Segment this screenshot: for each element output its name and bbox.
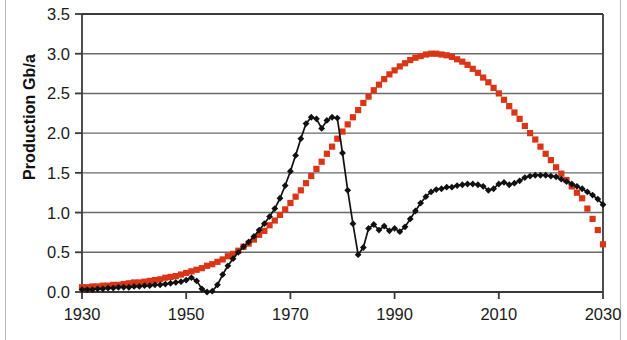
series-model-curve [79,51,606,291]
x-tick-label: 2030 [585,305,622,323]
x-tick-label: 1970 [272,305,309,323]
x-tick-label: 1930 [64,305,101,323]
data-point [167,280,174,287]
data-point [532,136,538,142]
data-point [449,184,456,191]
data-point [292,152,299,159]
data-point [261,228,267,234]
data-point [579,195,585,201]
y-tick-label: 2.0 [47,124,70,142]
data-point [589,216,595,222]
data-point [485,79,491,85]
data-point [297,135,304,142]
data-point [371,87,377,93]
data-point [319,159,325,165]
data-point [178,278,185,285]
series-line [82,117,603,292]
data-point [339,150,346,157]
data-point [345,121,351,127]
data-point [517,116,523,122]
data-point [595,227,601,233]
data-point [172,279,179,286]
data-point [454,182,461,189]
y-tick-labels: 0.00.51.01.52.02.53.03.5 [47,5,70,301]
y-tick-label: 1.5 [47,164,70,182]
data-point [313,115,320,122]
data-point [329,144,335,150]
data-point [355,107,361,113]
data-point [277,212,283,218]
data-point [350,220,357,227]
data-point [272,217,278,223]
data-point [287,200,293,206]
data-point [537,144,543,150]
x-tick-label: 2010 [480,305,517,323]
y-tick-label: 3.0 [47,45,70,63]
chart-container: Production Gb/a 0.00.51.01.52.02.53.03.5… [0,0,627,340]
data-point [511,109,517,115]
data-point [469,181,476,188]
data-point [490,85,496,91]
data-point [501,97,507,103]
x-tick-label: 1990 [376,305,413,323]
plot-area: 0.00.51.01.52.02.53.03.5 193019501970199… [0,0,627,340]
y-tick-label: 0.5 [47,243,70,261]
data-point [287,168,294,175]
data-point [360,100,366,106]
data-point [548,157,554,163]
data-point [308,173,314,179]
x-tick-labels: 193019501970199020102030 [64,305,622,323]
data-point [376,82,382,88]
data-point [553,164,559,170]
data-point [282,206,288,212]
data-point [324,151,330,157]
y-tick-label: 3.5 [47,5,70,23]
data-point [574,190,580,196]
data-point [527,130,533,136]
data-point [522,123,528,129]
y-tick-label: 0.0 [47,283,70,301]
data-point [600,241,606,247]
data-point [506,103,512,109]
data-point [277,195,284,202]
data-point [303,180,309,186]
data-point [282,182,289,189]
data-point [350,114,356,120]
data-point [543,151,549,157]
data-point [527,173,534,180]
data-point [344,187,351,194]
data-point [365,94,371,100]
x-tick-label: 1950 [168,305,205,323]
y-tick-marks [75,14,82,292]
series-historical-production [79,114,607,296]
y-tick-label: 2.5 [47,84,70,102]
data-point [475,181,482,188]
y-tick-label: 1.0 [47,204,70,222]
data-point [438,185,445,192]
data-point [293,194,299,200]
data-point [298,187,304,193]
data-point [334,115,341,122]
data-point [584,206,590,212]
data-point [459,181,466,188]
data-point [496,90,502,96]
data-point [313,166,319,172]
data-point [548,173,555,180]
x-tick-marks [82,292,603,299]
